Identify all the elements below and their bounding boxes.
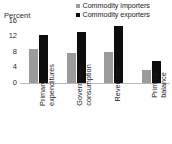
x-tick-line2: consumption <box>85 64 94 105</box>
legend-label-exporters: Commodity exporters <box>83 11 150 19</box>
square-marker-gray-icon <box>76 4 80 8</box>
bar-importers-primary-expenditures <box>29 49 38 83</box>
y-tick-8: 8 <box>4 48 17 56</box>
x-tick-government-consumption: Government consumption <box>58 85 96 144</box>
chart-legend: Commodity importers Commodity exporters <box>76 2 172 20</box>
x-tick-line2: expenditures <box>47 64 56 106</box>
y-tick-4: 4 <box>4 63 17 71</box>
y-tick-16: 16 <box>4 17 17 25</box>
y-tick-0: 0 <box>4 79 17 87</box>
legend-label-importers: Commodity importers <box>83 2 150 10</box>
x-tick-line2: balance <box>160 72 169 98</box>
x-tick-line1: Primary <box>150 73 159 98</box>
x-tick-primary-expenditures: Primary expenditures <box>20 85 58 144</box>
bar-chart: Percent Commodity importers Commodity ex… <box>0 0 172 144</box>
x-axis-category-labels: Primary expenditures Government consumpt… <box>20 85 170 144</box>
legend-item-commodity-exporters: Commodity exporters <box>76 11 172 19</box>
legend-item-commodity-importers: Commodity importers <box>76 2 172 10</box>
square-marker-black-icon <box>76 13 80 17</box>
x-tick-line1: Revenues <box>113 69 122 102</box>
x-tick-revenues: Revenues <box>95 85 133 144</box>
x-tick-line1: Government <box>75 66 84 106</box>
bar-importers-revenues <box>104 52 113 83</box>
y-tick-12: 12 <box>4 32 17 40</box>
x-tick-line1: Primary <box>38 81 47 106</box>
x-tick-primary-balance: Primary balance <box>133 85 171 144</box>
